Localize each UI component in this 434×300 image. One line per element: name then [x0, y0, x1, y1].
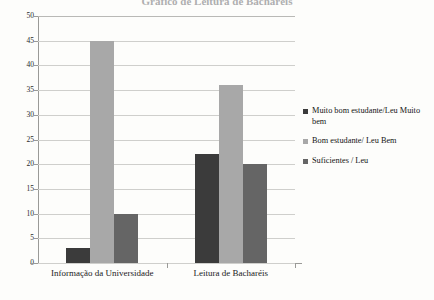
y-axis-tick-labels: 50454035302520151050 [0, 16, 34, 264]
legend-swatch-icon [303, 109, 308, 114]
y-axis-tick-label: 20 [6, 160, 34, 168]
y-axis-tick-label: 50 [6, 12, 34, 20]
bar [66, 248, 90, 263]
bar [219, 85, 243, 263]
y-axis-tick-label: 15 [6, 185, 34, 193]
legend-item[interactable]: Muito bom estudante/Leu Muito bem [303, 106, 434, 127]
bar [90, 41, 114, 263]
legend-item-label: Muito bom estudante/Leu Muito bem [312, 106, 434, 127]
y-axis-tick-label: 5 [6, 234, 34, 242]
bar-chart-figure: Gráfico de Leitura de Bacharéis 50454035… [0, 0, 434, 300]
legend-swatch-icon [303, 139, 308, 144]
y-axis-tick-label: 45 [6, 37, 34, 45]
x-axis-end-tick [295, 263, 296, 268]
y-axis-tick-label: 35 [6, 86, 34, 94]
legend-item-label: Suficientes / Leu [312, 156, 368, 167]
bar [243, 164, 267, 263]
x-axis-category-label: Leitura de Bacharéis [141, 268, 321, 279]
y-axis-tick-label: 10 [6, 210, 34, 218]
bars-layer [38, 16, 295, 263]
y-axis-tick-label: 25 [6, 136, 34, 144]
bar [195, 154, 219, 263]
legend-item[interactable]: Bom estudante/ Leu Bem [303, 136, 434, 147]
y-axis-tick-label: 40 [6, 61, 34, 69]
chart-legend: Muito bom estudante/Leu Muito bemBom est… [303, 106, 434, 175]
plot-area [38, 16, 295, 263]
chart-title-text: Gráfico de Leitura de Bacharéis [142, 0, 293, 7]
legend-swatch-icon [303, 159, 308, 164]
chart-title: Gráfico de Leitura de Bacharéis [0, 0, 434, 7]
legend-item[interactable]: Suficientes / Leu [303, 156, 434, 167]
x-axis-category-tick [167, 263, 168, 268]
legend-item-label: Bom estudante/ Leu Bem [312, 136, 397, 147]
y-axis-tick-label: 30 [6, 111, 34, 119]
bar [114, 214, 138, 263]
